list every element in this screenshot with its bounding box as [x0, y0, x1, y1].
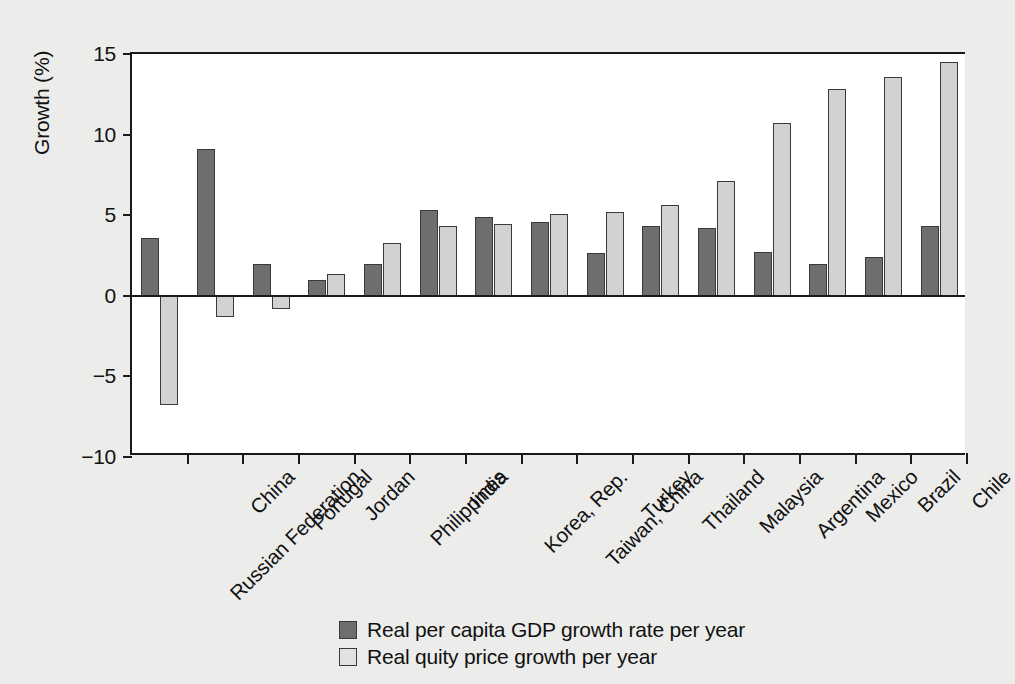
bar [531, 222, 549, 296]
x-axis-label: Brazil [912, 465, 964, 517]
bar [475, 217, 493, 296]
x-axis-tick [688, 453, 690, 464]
bar [160, 296, 178, 406]
bar [141, 238, 159, 296]
bar [550, 214, 568, 296]
x-axis-tick [910, 453, 912, 464]
bar [809, 264, 827, 295]
bar [884, 77, 902, 296]
bar [364, 264, 382, 295]
bar [642, 226, 660, 296]
x-axis-tick [743, 453, 745, 464]
x-axis-label: Chile [967, 465, 1015, 514]
y-axis-tick-label: 0 [105, 284, 116, 308]
x-axis-tick [465, 453, 467, 464]
legend-label-gdp-growth: Real per capita GDP growth rate per year [367, 618, 745, 642]
bar [253, 264, 271, 296]
y-axis-tick-label: −5 [93, 364, 116, 388]
y-axis-tick-label: 10 [93, 123, 116, 147]
legend-item-gdp-growth: Real per capita GDP growth rate per year [339, 618, 745, 642]
bars-layer [132, 54, 965, 453]
bar [439, 226, 457, 295]
x-axis-tick [187, 453, 189, 464]
y-axis-tick: −10 [123, 456, 132, 458]
x-axis-tick [298, 453, 300, 464]
bar [494, 224, 512, 296]
y-axis-tick: 0 [123, 295, 132, 297]
x-axis-tick [409, 453, 411, 464]
legend-swatch-light-icon [339, 648, 357, 666]
y-axis-title: Growth (%) [30, 51, 54, 155]
bar [420, 210, 438, 295]
x-axis-tick [521, 453, 523, 464]
y-axis-tick: 15 [123, 53, 132, 55]
y-axis-tick-label: 15 [93, 42, 116, 66]
x-axis-tick [576, 453, 578, 464]
bar [216, 296, 234, 317]
x-axis-tick [855, 453, 857, 464]
x-axis-tick [632, 453, 634, 464]
bar [308, 280, 326, 296]
x-axis-tick [242, 453, 244, 464]
zero-baseline [132, 295, 965, 297]
x-axis-tick [354, 453, 356, 464]
x-axis-tick [966, 453, 968, 464]
bar [606, 212, 624, 296]
legend-label-equity-price-growth: Real quity price growth per year [367, 645, 657, 669]
y-axis-tick: −5 [123, 375, 132, 377]
bar [865, 257, 883, 296]
bar [383, 243, 401, 296]
bar [921, 226, 939, 296]
bar [773, 123, 791, 295]
x-axis-tick [799, 453, 801, 464]
y-axis-tick: 5 [123, 214, 132, 216]
bar [272, 296, 290, 309]
y-axis-tick: 10 [123, 134, 132, 136]
bar [587, 253, 605, 296]
bar [828, 89, 846, 295]
x-axis-label: China [245, 465, 299, 519]
bar [717, 181, 735, 295]
y-axis-tick-label: 5 [105, 203, 116, 227]
plot-area: 151050−5−10 [130, 52, 965, 455]
y-axis-tick-label: −10 [81, 445, 116, 469]
legend-item-equity-price-growth: Real quity price growth per year [339, 645, 745, 669]
bar [327, 274, 345, 296]
bar [754, 252, 772, 296]
chart-legend: Real per capita GDP growth rate per year… [339, 618, 745, 669]
bar [940, 62, 958, 296]
bar [698, 228, 716, 296]
bar [197, 149, 215, 296]
bar [661, 205, 679, 296]
legend-swatch-dark-icon [339, 621, 357, 639]
